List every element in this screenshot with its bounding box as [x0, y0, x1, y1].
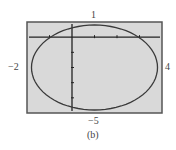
label-ymax: 1: [91, 10, 96, 20]
graph-window: [0, 0, 176, 150]
label-xmin: −2: [8, 62, 19, 72]
chart-caption: (b): [87, 130, 99, 140]
label-ymin: −5: [88, 116, 99, 126]
label-xmax: 4: [165, 62, 170, 72]
